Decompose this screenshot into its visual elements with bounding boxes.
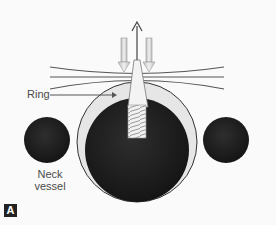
down-arrow-left <box>118 38 130 72</box>
right-neck-vessel <box>203 117 249 163</box>
device-threaded-shaft <box>128 105 146 138</box>
panel-label-badge: A <box>4 204 17 217</box>
down-arrow-right <box>143 38 155 72</box>
neck-vessel-label-line2: vessel <box>34 180 66 192</box>
left-neck-vessel <box>24 117 70 163</box>
neck-vessel-label: Neck vessel <box>34 168 66 192</box>
neck-vessel-label-line1: Neck <box>34 168 66 180</box>
ring-label: Ring <box>27 88 50 100</box>
